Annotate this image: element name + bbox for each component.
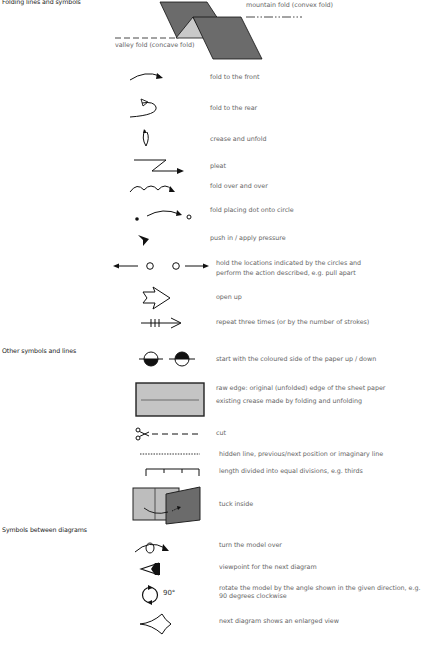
open-up-arrow-icon (141, 286, 173, 310)
section-title-folding: Folding lines and symbols (2, 0, 81, 5)
rotate-icon (140, 583, 162, 607)
fold-front-arrow-icon (128, 70, 168, 84)
enlarged-view-icon (138, 611, 172, 637)
raw-edge-rectangle-icon (135, 382, 205, 418)
turn-over-icon (133, 539, 173, 555)
label-crease-unfold: crease and unfold (210, 135, 266, 145)
label-tuck-inside: tuck inside (219, 500, 253, 510)
label-pleat: pleat (210, 162, 226, 172)
hidden-line-icon (140, 452, 202, 456)
label-push-in: push in / apply pressure (210, 234, 286, 244)
equal-divisions-icon (145, 467, 201, 477)
label-rotate: rotate the model by the angle shown in t… (219, 584, 420, 601)
label-existing-crease: existing crease made by folding and unfo… (216, 397, 362, 407)
label-hold-pull-apart: hold the locations indicated by the circ… (216, 259, 361, 278)
label-hidden-line: hidden line, previous/next position or i… (219, 450, 383, 460)
label-viewpoint: viewpoint for the next diagram (219, 563, 317, 573)
label-dot-to-circle: fold placing dot onto circle (210, 206, 294, 216)
fold-over-and-over-icon (128, 180, 184, 194)
label-raw-edge: raw edge: original (unfolded) edge of th… (216, 384, 385, 394)
section-title-other: Other symbols and lines (2, 347, 76, 354)
label-fold-front: fold to the front (210, 73, 259, 83)
coloured-side-up-down-icon (138, 350, 196, 368)
label-fold-over-and-over: fold over and over (210, 182, 268, 192)
label-coloured-side: start with the coloured side of the pape… (216, 355, 376, 365)
label-turn-over: turn the model over (219, 541, 282, 551)
viewpoint-eye-icon (139, 561, 165, 577)
label-fold-rear: fold to the rear (210, 104, 257, 114)
label-enlarged-view: next diagram shows an enlarged view (219, 617, 339, 627)
mountain-fold-label: mountain fold (convex fold) (246, 1, 333, 11)
rotate-angle-label: 90° (163, 589, 175, 599)
label-cut: cut (216, 429, 226, 439)
dot-to-circle-icon (133, 203, 203, 223)
valley-fold-label: valley fold (concave fold) (115, 41, 194, 51)
tuck-inside-icon (132, 486, 204, 526)
hold-pull-apart-icon (112, 259, 212, 273)
push-in-arrow-icon (137, 233, 151, 247)
repeat-arrow-icon (140, 317, 184, 329)
pleat-arrow-icon (133, 157, 185, 175)
label-equal-divisions: length divided into equal divisions, e.g… (219, 467, 363, 477)
fold-rear-arrow-icon (128, 93, 164, 119)
crease-unfold-arrow-icon (140, 128, 154, 148)
label-repeat: repeat three times (or by the number of … (216, 318, 369, 328)
label-open-up: open up (216, 293, 242, 303)
scissors-cut-icon (135, 427, 205, 441)
section-title-between: Symbols between diagrams (2, 526, 87, 533)
